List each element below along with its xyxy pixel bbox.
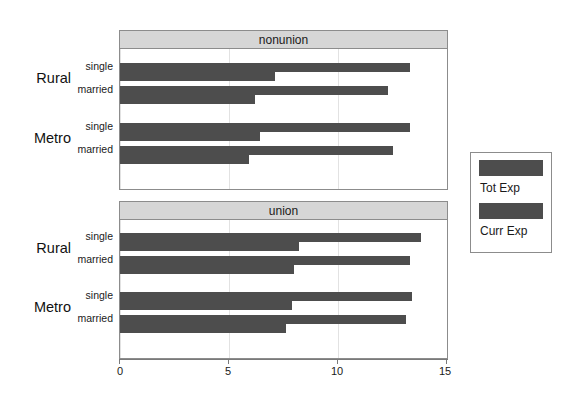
panel-union: union [119,201,448,359]
bar-union-rural-single-tot [120,233,421,242]
panel-nonunion: nonunion [119,30,448,190]
bar-union-rural-married-tot [120,256,410,265]
row-labels-nonunion: single married Rural single married Metr… [0,49,119,190]
bar-nonunion-metro-married-tot [120,146,393,155]
legend-label-curr-exp: Curr Exp [480,225,543,237]
panel-strip-union: union [119,201,448,220]
gridline-15 [447,49,448,189]
row-label-metro-married: married [77,313,113,324]
bar-union-metro-married-curr [120,324,286,333]
panel-strip-label: union [269,205,298,217]
row-label-metro-single: single [86,290,113,301]
row-labels-union: single married Rural single married Metr… [0,220,119,359]
group-label-rural: Rural [36,71,71,86]
legend-swatch-tot-exp [479,160,543,176]
x-tick-label-15: 15 [439,366,451,377]
x-axis: 0 5 10 15 [119,359,448,389]
x-tick-0 [119,359,120,364]
plot-area-nonunion [119,49,448,190]
bar-nonunion-rural-single-curr [120,72,275,81]
x-tick-15 [446,359,447,364]
bar-union-rural-single-curr [120,242,299,251]
panel-strip-nonunion: nonunion [119,30,448,49]
bar-nonunion-rural-married-curr [120,95,255,104]
row-label-metro-single: single [86,121,113,132]
x-tick-label-10: 10 [331,366,343,377]
row-label-rural-married: married [77,84,113,95]
bar-union-metro-single-tot [120,292,412,301]
gridline-15 [447,220,448,358]
row-label-rural-single: single [86,61,113,72]
row-label-metro-married: married [77,144,113,155]
bar-nonunion-metro-married-curr [120,155,249,164]
legend: Tot Exp Curr Exp [470,152,552,253]
group-label-metro: Metro [34,131,71,146]
x-tick-label-5: 5 [225,366,231,377]
chart-figure: nonunion single married Rural single mar… [0,0,561,394]
plot-area-union [119,220,448,359]
row-label-rural-single: single [86,231,113,242]
legend-swatch-curr-exp [479,203,543,219]
x-axis-line [119,359,448,360]
x-tick-10 [337,359,338,364]
bar-nonunion-metro-single-curr [120,132,260,141]
bar-union-metro-married-tot [120,315,406,324]
x-tick-5 [228,359,229,364]
group-label-metro: Metro [34,300,71,315]
x-tick-label-0: 0 [117,366,123,377]
bar-nonunion-rural-single-tot [120,63,410,72]
bar-union-rural-married-curr [120,265,294,274]
row-label-rural-married: married [77,254,113,265]
bar-union-metro-single-curr [120,301,292,310]
bar-nonunion-metro-single-tot [120,123,410,132]
panel-strip-label: nonunion [259,34,308,46]
legend-label-tot-exp: Tot Exp [480,182,543,194]
bar-nonunion-rural-married-tot [120,86,388,95]
group-label-rural: Rural [36,241,71,256]
